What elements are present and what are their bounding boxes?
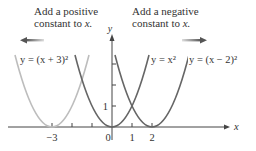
x-tick-label-neg3: −3	[46, 132, 57, 143]
label-middle-curve: y = x²	[150, 54, 177, 65]
y-tick-label-1: 1	[103, 101, 108, 112]
x-axis-arrow-icon	[224, 125, 230, 130]
label-right-curve: y = (x − 2)²	[188, 54, 238, 65]
y-axis-arrow-icon	[110, 34, 115, 41]
right-annotation: Add a negative constant to x.	[132, 5, 199, 29]
right-shift-arrow-icon	[182, 37, 207, 43]
label-left-curve: y = (x + 3)²	[19, 54, 69, 65]
x-axis-label: x	[233, 121, 239, 132]
left-shift-arrow-icon	[20, 37, 44, 43]
left-annotation-line1: Add a positive	[34, 5, 98, 17]
x-tick-label-1: 1	[129, 132, 134, 143]
x-tick-label-0: 0	[105, 132, 110, 143]
left-annotation: Add a positive constant to x.	[34, 5, 98, 29]
right-annotation-line2: constant to x.	[132, 17, 199, 29]
y-axis	[110, 34, 117, 140]
left-annotation-line2: constant to x.	[34, 17, 98, 29]
right-annotation-line1: Add a negative	[132, 5, 199, 17]
x-tick-label-2: 2	[149, 132, 154, 143]
y-axis-label: y	[107, 23, 113, 34]
